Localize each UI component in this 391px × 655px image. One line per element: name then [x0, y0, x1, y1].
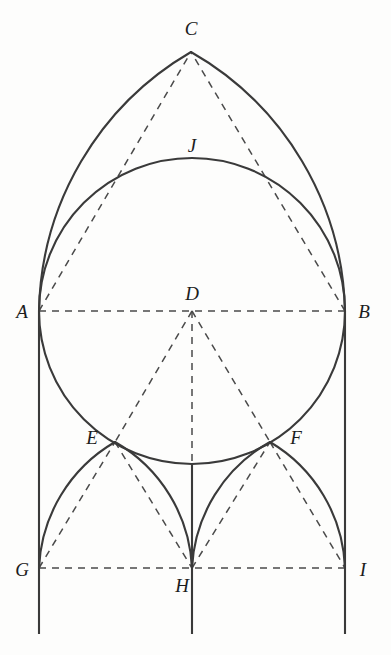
radius-D-to-E — [115, 311, 192, 442]
geometric-figure: ABCDEFGHIJ — [0, 0, 391, 655]
point-label-h: H — [174, 575, 190, 596]
point-label-j: J — [188, 135, 198, 156]
arc-G-to-E — [39, 442, 115, 568]
point-label-d: D — [184, 283, 199, 304]
point-label-f: F — [289, 427, 302, 448]
chord-G-to-E — [39, 442, 115, 568]
chord-F-to-I — [270, 442, 345, 568]
point-label-i: I — [359, 559, 368, 580]
point-label-c: C — [185, 18, 198, 39]
chord-B-to-C — [191, 52, 345, 311]
chord-A-to-C — [39, 52, 191, 311]
arc-H-to-F — [192, 442, 270, 568]
point-label-b: B — [358, 301, 370, 322]
point-label-a: A — [14, 301, 28, 322]
arch-construction-drawing: ABCDEFGHIJ — [0, 0, 391, 655]
radius-D-to-F — [192, 311, 270, 442]
chord-H-to-F — [192, 442, 270, 568]
point-label-e: E — [85, 427, 98, 448]
chord-E-to-H — [115, 442, 192, 568]
arc-H-to-E — [115, 442, 192, 568]
point-label-g: G — [15, 559, 29, 580]
arc-I-to-F — [270, 442, 345, 568]
